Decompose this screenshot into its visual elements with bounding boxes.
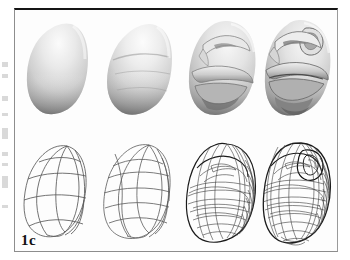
subdivision-level-1-wireframe: [99, 138, 185, 252]
margin-text-fragment-8: [2, 205, 8, 208]
row-shaded-renders: [15, 12, 337, 140]
subdivision-level-2-shaded: [183, 12, 267, 140]
subdivision-level-0-shaded: [17, 12, 101, 140]
margin-text-fragment-4: [2, 128, 8, 139]
margin-text-fragments: [0, 0, 13, 260]
figure-label: 1c: [21, 233, 36, 248]
scanned-figure-page: 1c: [0, 0, 350, 260]
margin-text-fragment-2: [2, 96, 8, 101]
subdivision-level-2-wireframe: [183, 138, 267, 252]
margin-text-fragment-3: [2, 113, 8, 116]
figure-content: [15, 10, 337, 251]
subdivision-level-1-shaded: [99, 12, 185, 140]
row-control-meshes: [15, 138, 337, 252]
margin-text-fragment-7: [2, 176, 8, 188]
margin-text-fragment-0: [2, 62, 8, 67]
subdivision-level-3-shaded: [261, 12, 338, 140]
margin-text-fragment-1: [2, 74, 8, 78]
margin-text-fragment-5: [2, 152, 8, 156]
figure-frame: 1c: [14, 8, 338, 252]
subdivision-level-3-wireframe: [261, 138, 338, 252]
margin-text-fragment-6: [2, 163, 8, 166]
